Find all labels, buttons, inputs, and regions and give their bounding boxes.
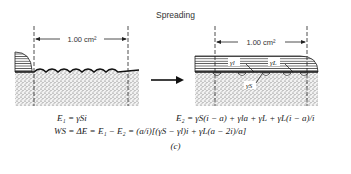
right-dimension-label: 1.00 cm² [246, 38, 276, 47]
equation-e2: E₂ = γS(i − a) + γla + γL + γL(i − a)/i [176, 113, 315, 123]
figure-caption: (c) [0, 141, 351, 151]
right-panel: 1.00 cm² γl γL γS [195, 26, 318, 106]
equation-e1: E₁ = γSi [57, 113, 87, 123]
equation-work-of-spreading: WS = ΔE = E₁ − E₂ = (a/i)[(γS − γl)i + γ… [54, 126, 246, 136]
left-dimension-label: 1.00 cm² [67, 35, 97, 44]
gamma-l-label: γl [230, 59, 235, 67]
gamma-L-label: γL [270, 59, 277, 67]
left-panel: 1.00 cm² [15, 26, 139, 106]
transition-arrow [151, 76, 184, 84]
gamma-S-label: γS [246, 82, 253, 90]
liquid-drop [15, 52, 32, 72]
liquid-film [195, 56, 318, 72]
solid-surface-wetted [195, 72, 318, 106]
